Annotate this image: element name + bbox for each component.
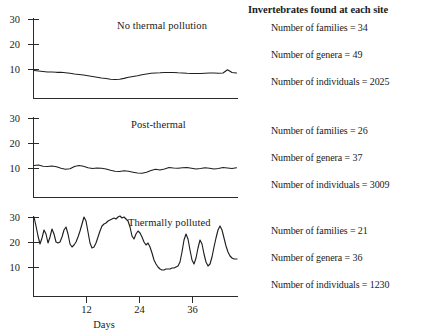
panel-title-2: Post-thermal [131,119,186,130]
y-tick-label-20: 20 [10,39,21,50]
stat-block-thermally-polluted: Number of families = 21 Number of genera… [271,225,438,291]
panel-no-thermal-pollution: No thermal pollution 30 20 10 [0,14,245,104]
y-tick-label-30: 30 [10,14,21,25]
side-heading: Invertebrates found at each site [248,4,388,15]
y-tick-label-30: 30 [10,113,21,124]
y-tick-label-10: 10 [10,163,21,174]
panel-thermally-polluted: Thermally polluted 30 20 10 12 24 36 Day… [0,212,245,335]
figure-root: No thermal pollution 30 20 10 Post-therm… [0,0,438,335]
stat-families: Number of families = 34 [271,22,438,34]
x-tick-label-24: 24 [134,304,145,315]
stat-individuals: Number of individuals = 1230 [271,279,438,291]
y-tick-label-10: 10 [10,262,21,273]
series-line-panel-2 [34,165,237,173]
panel-title-3: Thermally polluted [128,217,211,228]
panel-post-thermal: Post-thermal 30 20 10 [0,113,245,203]
stat-block-post-thermal: Number of families = 26 Number of genera… [271,125,438,191]
stat-families: Number of families = 26 [271,125,438,137]
side-summary-column: Invertebrates found at each site Number … [246,0,438,335]
y-tick-label-20: 20 [10,237,21,248]
x-tick-label-12: 12 [81,304,92,315]
y-tick-label-30: 30 [10,212,21,223]
stat-block-no-thermal-pollution: Number of families = 34 Number of genera… [271,22,438,88]
x-tick-label-36: 36 [187,304,198,315]
stat-families: Number of families = 21 [271,225,438,237]
stat-genera: Number of genera = 36 [271,252,438,264]
series-line-panel-1 [34,70,237,80]
panel-2-chart: 30 20 10 [0,113,245,203]
stat-genera: Number of genera = 37 [271,152,438,164]
stat-individuals: Number of individuals = 3009 [271,179,438,191]
panel-3-chart: 30 20 10 12 24 36 Days [0,212,245,335]
stat-genera: Number of genera = 49 [271,49,438,61]
x-axis-label: Days [93,319,115,330]
y-tick-label-20: 20 [10,138,21,149]
panel-title-1: No thermal pollution [117,20,207,31]
y-tick-label-10: 10 [10,64,21,75]
stat-individuals: Number of individuals = 2025 [271,76,438,88]
panel-3-frame [34,216,239,297]
